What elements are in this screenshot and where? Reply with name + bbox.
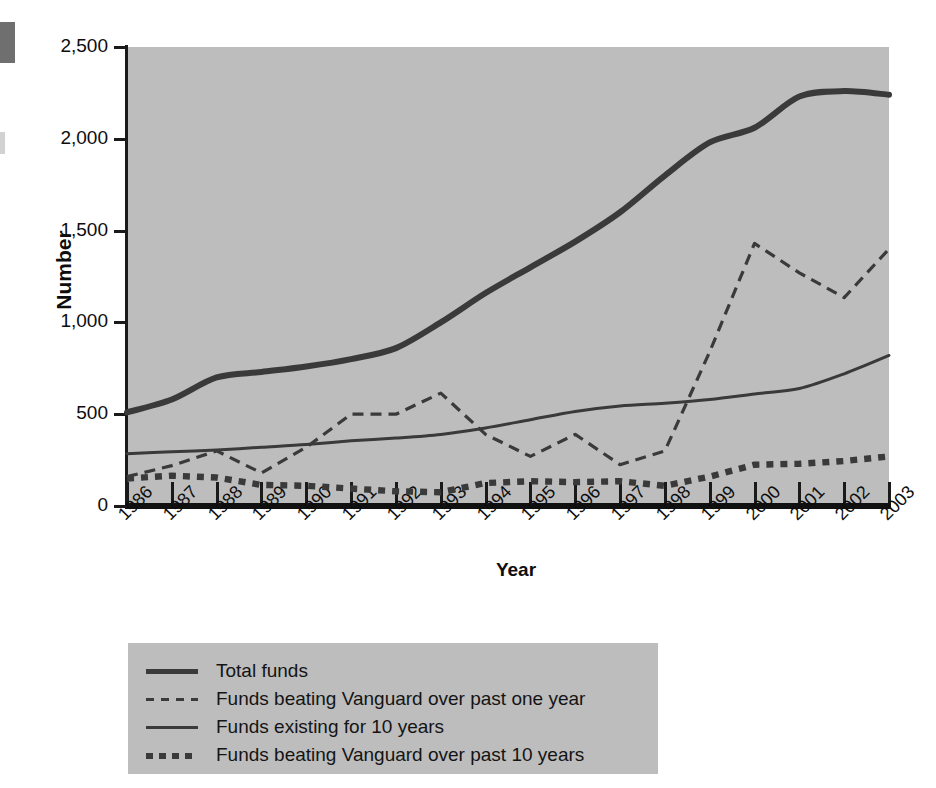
legend-item[interactable]: Funds beating Vanguard over past 10 year… [146, 741, 584, 768]
legend-item[interactable]: Funds existing for 10 years [146, 713, 444, 740]
legend-item-label: Total funds [216, 660, 308, 682]
legend-line-sample-icon [146, 661, 198, 681]
legend-line-sample-icon [146, 745, 198, 765]
legend-item-label: Funds beating Vanguard over past 10 year… [216, 744, 584, 766]
legend-item-label: Funds beating Vanguard over past one yea… [216, 688, 585, 710]
legend-item[interactable]: Funds beating Vanguard over past one yea… [146, 685, 585, 712]
chart-legend: Total fundsFunds beating Vanguard over p… [128, 643, 658, 774]
legend-item-label: Funds existing for 10 years [216, 716, 444, 738]
series-line [127, 456, 889, 492]
chart-page: 05001,0001,5002,0002,500 198619871988198… [0, 0, 936, 788]
series-line [127, 355, 889, 453]
legend-line-sample-icon [146, 689, 198, 709]
series-line [127, 91, 889, 412]
legend-line-sample-icon [146, 717, 198, 737]
legend-item[interactable]: Total funds [146, 657, 308, 684]
